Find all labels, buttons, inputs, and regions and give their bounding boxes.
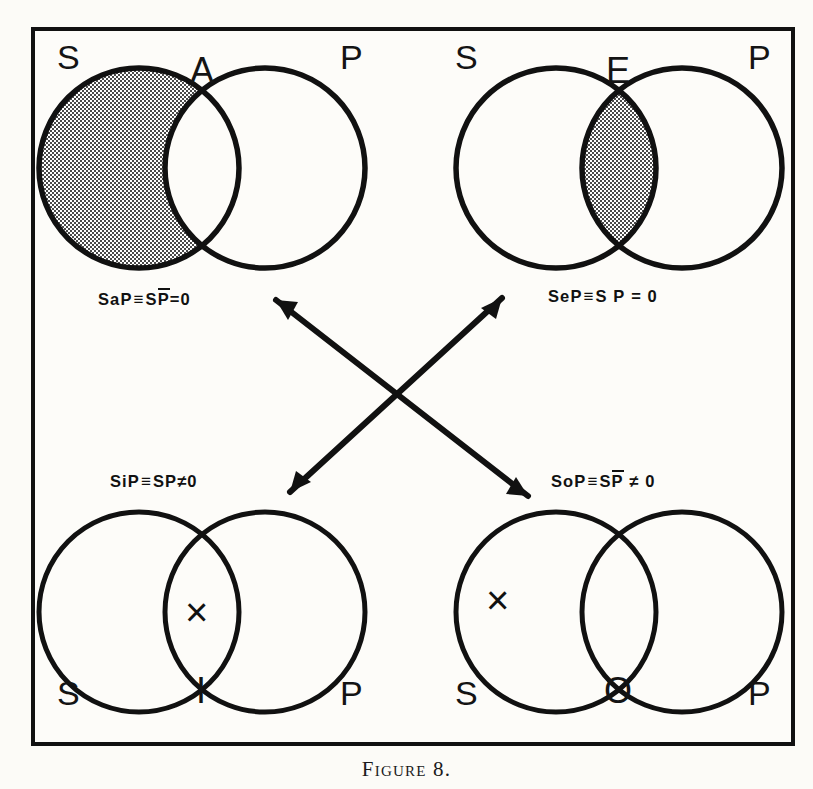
formula-A: SaP≡SP=0 [98,288,191,308]
formula-I: SiP≡SP≠0 [110,473,198,490]
formula-I-value: 0 [187,472,197,490]
label-E-subject-S: S [455,40,478,74]
formula-A-name: SaP [98,290,133,308]
figure-frame [31,27,795,746]
x-mark-O-s-only: × [486,580,509,620]
label-proposition-I: I [196,673,206,709]
formula-A-equivalence-sign: ≡ [133,290,146,309]
label-E-predicate-P: P [748,40,771,74]
formula-I-s-term: S [153,472,165,490]
formula-O-p-bar-term: P [612,470,624,490]
formula-I-relation: ≠ [177,472,187,490]
formula-A-relation: = [170,290,181,308]
formula-I-equivalence-sign: ≡ [140,472,153,491]
label-I-subject-S: S [57,676,80,710]
scanned-page: S A P SaP≡SP=0 S E P SeP≡S P = 0 SiP≡SP≠… [0,0,813,789]
formula-E: SeP≡S P = 0 [548,288,658,305]
label-O-predicate-P: P [748,676,771,710]
formula-E-equivalence-sign: ≡ [583,287,596,306]
formula-O-name: SoP [551,472,586,490]
formula-O-relation: ≠ [629,472,639,490]
formula-E-relation: = [631,287,642,305]
label-A-predicate-P: P [340,40,363,74]
formula-E-name: SeP [548,287,583,305]
formula-O: SoP≡SP ≠ 0 [551,470,655,490]
formula-O-equivalence-sign: ≡ [586,472,599,491]
label-A-subject-S: S [57,40,80,74]
formula-E-p-term: P [613,287,625,305]
label-O-subject-S: S [455,676,478,710]
formula-E-value: 0 [648,287,658,305]
formula-E-s-term: S [596,287,608,305]
label-proposition-A: A [190,53,214,89]
label-proposition-E: E [606,53,630,89]
label-I-predicate-P: P [340,676,363,710]
figure-caption: Figure 8. [0,757,813,782]
formula-O-s-term: S [599,472,611,490]
formula-I-p-term: P [165,472,177,490]
formula-A-p-bar-term: P [158,288,170,308]
formula-A-s-term: S [146,290,158,308]
formula-I-name: SiP [110,472,140,490]
formula-A-value: 0 [181,290,191,308]
label-proposition-O: O [604,673,632,709]
formula-O-value: 0 [645,472,655,490]
x-mark-I-intersection: × [185,592,208,632]
